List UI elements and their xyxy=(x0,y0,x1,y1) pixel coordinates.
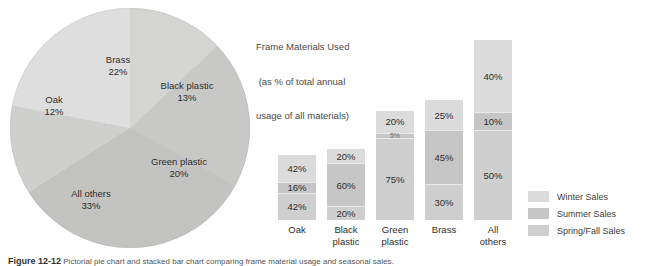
pie-slice-label-all-others: All others 33% xyxy=(54,188,128,211)
pie-slice-name-black-plastic: Black plastic xyxy=(161,80,214,91)
legend-swatch-summer-sales xyxy=(528,208,549,219)
pie-slice-value-brass: 22% xyxy=(88,66,148,78)
figure-caption-text: Pictorial pie chart and stacked bar char… xyxy=(63,257,393,266)
pie-chart: Brass 22% Black plastic 13% Oak 12% Gree… xyxy=(10,8,258,248)
bar-segment-value: 20% xyxy=(336,151,355,162)
bar-xaxis-label-black-plastic: Blackplastic xyxy=(319,224,373,247)
pie-chart-disc xyxy=(10,8,250,248)
bar-xaxis-label-line: Green xyxy=(368,224,422,236)
bar-segment-value: 75% xyxy=(385,174,404,185)
pie-slice-label-oak: Oak 12% xyxy=(32,94,76,117)
bar-stack: 20%5%75% xyxy=(376,111,414,220)
bar-segment-winter[interactable]: 42% xyxy=(278,155,316,182)
pie-slice-value-black-plastic: 13% xyxy=(148,92,226,104)
bar-chart-legend: Winter Sales Summer Sales Spring/Fall Sa… xyxy=(528,188,644,239)
bar-xaxis-label-line: plastic xyxy=(319,236,373,248)
bar-segment-value: 42% xyxy=(287,201,306,212)
pie-slice-value-green-plastic: 20% xyxy=(138,168,220,180)
pie-slice-label-brass: Brass 22% xyxy=(88,54,148,77)
pie-slice-name-brass: Brass xyxy=(106,54,130,65)
bar-segment-value: 60% xyxy=(336,180,355,191)
bar-segment-springfall[interactable]: 30% xyxy=(425,184,463,220)
legend-label-spring-fall-sales: Spring/Fall Sales xyxy=(557,226,625,236)
figure-caption-number: Figure 12-12 xyxy=(8,256,61,266)
bar-segment-value: 42% xyxy=(287,163,306,174)
bar-segment-summer[interactable]: 10% xyxy=(474,112,512,130)
pie-slice-value-oak: 12% xyxy=(32,106,76,118)
legend-swatch-winter-sales xyxy=(528,191,549,202)
bar-xaxis-label-green-plastic: Greenplastic xyxy=(368,224,422,247)
legend-item-spring-fall-sales: Spring/Fall Sales xyxy=(528,222,644,239)
bar-segment-springfall[interactable]: 75% xyxy=(376,138,414,220)
bar-stack: 40%10%50% xyxy=(474,40,512,220)
bar-segment-value: 50% xyxy=(483,170,502,181)
legend-item-summer-sales: Summer Sales xyxy=(528,205,644,222)
bar-column-all-others[interactable]: 40%10%50% xyxy=(474,40,512,220)
bar-segment-summer[interactable]: 16% xyxy=(278,182,316,192)
figure-caption: Figure 12-12 Pictorial pie chart and sta… xyxy=(8,256,638,266)
bar-xaxis-label-line: Black xyxy=(319,224,373,236)
bar-segment-summer[interactable]: 45% xyxy=(425,130,463,184)
bar-xaxis-label-oak: Oak xyxy=(270,224,324,236)
bar-segment-value: 40% xyxy=(483,71,502,82)
stacked-bar-chart: 42%16%42%Oak20%60%20%Blackplastic20%5%75… xyxy=(278,40,518,220)
bar-segment-summer[interactable]: 60% xyxy=(327,163,365,206)
pie-slice-name-oak: Oak xyxy=(45,94,62,105)
legend-swatch-spring-fall-sales xyxy=(528,225,549,236)
bar-column-brass[interactable]: 25%45%30% xyxy=(425,100,463,220)
pie-slice-value-all-others: 33% xyxy=(54,200,128,212)
pie-slice-name-green-plastic: Green plastic xyxy=(151,156,207,167)
pie-slice-name-all-others: All others xyxy=(71,188,111,199)
bar-xaxis-label-line: others xyxy=(466,236,520,248)
bar-xaxis-label-brass: Brass xyxy=(417,224,471,236)
bar-xaxis-label-line: All xyxy=(466,224,520,236)
bar-stack: 20%60%20% xyxy=(327,149,365,220)
bar-segment-springfall[interactable]: 50% xyxy=(474,130,512,220)
legend-label-summer-sales: Summer Sales xyxy=(557,209,616,219)
bar-stack: 25%45%30% xyxy=(425,100,463,220)
pie-slice-label-black-plastic: Black plastic 13% xyxy=(148,80,226,103)
bar-xaxis-label-all-others: Allothers xyxy=(466,224,520,247)
bar-xaxis-label-line: plastic xyxy=(368,236,422,248)
bar-segment-value: 25% xyxy=(434,110,453,121)
bar-segment-value: 20% xyxy=(336,208,355,219)
bar-column-green-plastic[interactable]: 20%5%75% xyxy=(376,111,414,220)
bar-stack: 42%16%42% xyxy=(278,155,316,220)
bar-segment-winter[interactable]: 20% xyxy=(327,149,365,163)
bar-column-black-plastic[interactable]: 20%60%20% xyxy=(327,149,365,220)
bar-segment-winter[interactable]: 20% xyxy=(376,111,414,133)
legend-label-winter-sales: Winter Sales xyxy=(557,192,608,202)
bar-segment-value: 20% xyxy=(385,116,404,127)
bar-segment-springfall[interactable]: 20% xyxy=(327,206,365,220)
bar-column-oak[interactable]: 42%16%42% xyxy=(278,155,316,220)
legend-item-winter-sales: Winter Sales xyxy=(528,188,644,205)
bar-segment-value: 45% xyxy=(434,152,453,163)
bar-segment-winter[interactable]: 25% xyxy=(425,100,463,130)
pie-slice-label-green-plastic: Green plastic 20% xyxy=(138,156,220,179)
bar-xaxis-label-line: Brass xyxy=(417,224,471,236)
bar-segment-value: 30% xyxy=(434,197,453,208)
bar-xaxis-label-line: Oak xyxy=(270,224,324,236)
bar-segment-winter[interactable]: 40% xyxy=(474,40,512,112)
bar-segment-value: 10% xyxy=(483,116,502,127)
bar-segment-springfall[interactable]: 42% xyxy=(278,193,316,220)
